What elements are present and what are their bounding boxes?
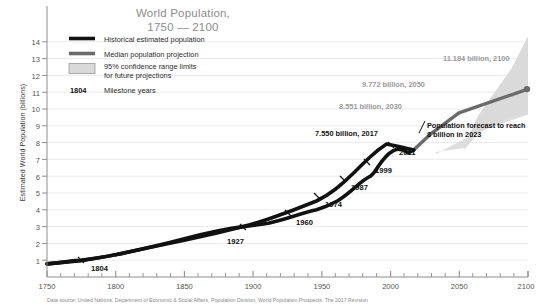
y-tick-12: 12 [18,72,40,81]
legend-label-historical: Historical estimated population [104,35,205,44]
x-tick-1750: 1750 [27,282,67,291]
callout-2050: 9.772 billion, 2050 [362,80,425,89]
projection-endpoint-marker [524,86,530,92]
chart-plot-area [0,0,544,305]
y-tick-4: 4 [18,206,40,215]
milestone-label-1804: 1804 [91,264,108,273]
x-tick-1950: 1950 [302,282,342,291]
y-tick-2: 2 [18,240,40,249]
milestone-label-1974: 1974 [325,200,342,209]
milestone-label-1960: 1960 [296,218,313,227]
y-tick-3: 3 [18,223,40,232]
legend-label-milestone: Milestone years [104,86,156,95]
y-tick-9: 9 [18,122,40,131]
x-tick-1900: 1900 [233,282,273,291]
milestone-label-1999: 1999 [375,166,392,175]
world-population-chart: World Population, 1750 — 2100 Estimated … [0,0,544,305]
milestone-label-1987: 1987 [351,183,368,192]
source-note: Data source: United Nations, Department … [47,297,368,303]
milestone-marker-1974 [314,193,320,199]
x-tick-2100: 2100 [506,282,544,291]
chart-subtitle: 1750 — 2100 [78,21,288,33]
legend-label-median: Median population projection [104,50,199,59]
callout-2100: 11.184 billion, 2100 [443,54,510,63]
annotation-8-billion-line2: 8 billion in 2023 [427,130,481,140]
x-axis-major-ticks [47,271,528,277]
y-tick-11: 11 [18,89,40,98]
y-tick-8: 8 [18,139,40,148]
legend-swatch-confidence [69,64,95,74]
y-tick-5: 5 [18,189,40,198]
y-tick-1: 1 [18,257,40,266]
milestone-label-2011: 2011 [399,148,415,157]
annotation-leader-line [419,121,425,133]
legend-label-confidence-line1: 95% confidence range limits [104,62,196,71]
x-tick-1850: 1850 [164,282,204,291]
chart-title: World Population, [78,7,288,19]
x-axis-minor-ticks [61,273,514,277]
x-tick-2050: 2050 [439,282,479,291]
y-axis-ticks [42,42,47,260]
x-tick-1800: 1800 [96,282,136,291]
y-tick-7: 7 [18,156,40,165]
legend-swatch-milestone-year: 1804 [70,86,86,95]
y-tick-14: 14 [18,38,40,47]
x-tick-2000: 2000 [371,282,411,291]
callout-2017: 7.550 billion, 2017 [315,129,378,138]
legend-label-confidence-line2: for future projections [104,71,171,80]
y-tick-13: 13 [18,55,40,64]
callout-2030: 8.551 billion, 2030 [339,102,402,111]
y-tick-10: 10 [18,105,40,114]
milestone-label-1927: 1927 [227,237,244,246]
y-tick-6: 6 [18,173,40,182]
